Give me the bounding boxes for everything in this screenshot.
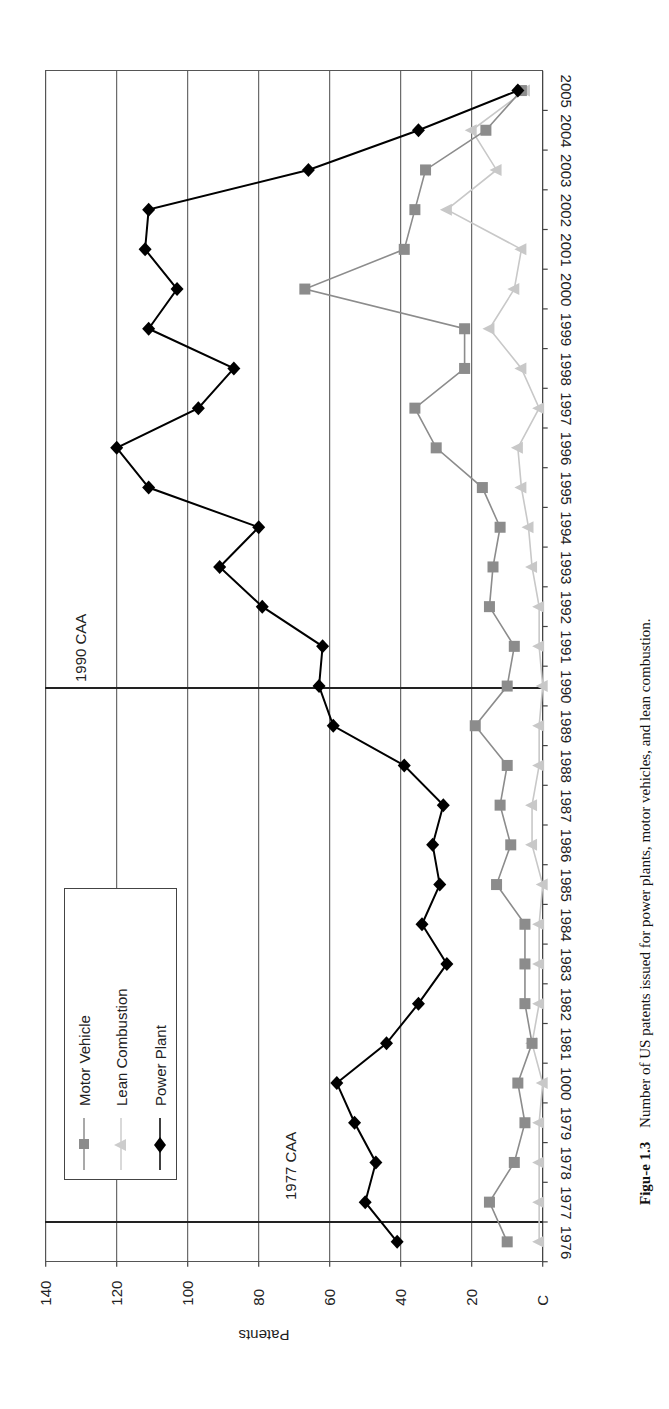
year-label: 1978 bbox=[558, 1146, 575, 1179]
line-motor-vehicle bbox=[305, 91, 532, 1242]
square-marker-icon bbox=[505, 839, 516, 850]
square-marker-icon bbox=[299, 284, 310, 295]
square-marker-icon bbox=[470, 720, 481, 731]
diamond-marker-icon bbox=[426, 838, 439, 852]
year-label: 1989 bbox=[558, 710, 575, 743]
square-marker-icon bbox=[484, 1197, 495, 1208]
year-label: 1998 bbox=[558, 352, 575, 385]
square-marker-icon bbox=[477, 482, 488, 493]
series-motor-vehicle bbox=[299, 85, 537, 1247]
diamond-marker-icon bbox=[142, 203, 155, 217]
year-label: 1997 bbox=[558, 392, 575, 425]
diamond-marker-icon bbox=[433, 878, 446, 892]
triangle-marker-icon bbox=[525, 799, 537, 811]
year-label: 1979 bbox=[558, 1107, 575, 1140]
square-marker-icon bbox=[488, 561, 499, 572]
axis-tick-label: 120 bbox=[108, 1281, 125, 1306]
legend-label-power-plant: Power Plant bbox=[152, 1024, 169, 1106]
square-marker-icon bbox=[409, 204, 420, 215]
triangle-marker-icon bbox=[525, 839, 537, 851]
event-label-1990-caa: 1990 CAA bbox=[72, 614, 89, 682]
year-label: 1981 bbox=[558, 1027, 575, 1060]
square-marker-icon bbox=[495, 800, 506, 811]
triangle-marker-icon bbox=[532, 1196, 544, 1208]
square-marker-icon bbox=[509, 641, 520, 652]
year-label: 1985 bbox=[558, 869, 575, 902]
year-label: 2002 bbox=[558, 194, 575, 227]
year-label: 2003 bbox=[558, 154, 575, 187]
diamond-marker-icon bbox=[416, 917, 429, 931]
year-label: 1993 bbox=[558, 551, 575, 584]
diamond-marker-icon bbox=[302, 163, 315, 177]
year-label: 2004 bbox=[558, 114, 575, 147]
square-marker-icon bbox=[431, 442, 442, 453]
y-axis-title: Patents bbox=[239, 1327, 290, 1344]
axis-tick-label: 140 bbox=[37, 1281, 54, 1306]
triangle-marker-icon bbox=[532, 1117, 544, 1129]
square-marker-icon bbox=[459, 363, 470, 374]
triangle-marker-icon bbox=[507, 283, 519, 295]
svg-text:Figu-e 1.3 Number of US: Figu-e 1.3 Number of US patents issued f… bbox=[637, 618, 653, 1205]
triangle-marker-icon bbox=[514, 362, 526, 374]
square-marker-icon bbox=[527, 1038, 538, 1049]
diamond-marker-icon bbox=[327, 719, 340, 733]
square-marker-icon bbox=[519, 919, 530, 930]
square-marker-icon bbox=[519, 998, 530, 1009]
triangle-marker-icon bbox=[511, 442, 523, 454]
square-marker-icon bbox=[420, 164, 431, 175]
axis-tick-label: 80 bbox=[250, 1289, 267, 1306]
square-marker-icon bbox=[459, 323, 470, 334]
triangle-marker-icon bbox=[532, 402, 544, 414]
triangle-marker-icon bbox=[532, 958, 544, 970]
square-marker-icon bbox=[519, 958, 530, 969]
year-label: 1991 bbox=[558, 630, 575, 663]
square-marker-icon bbox=[502, 681, 513, 692]
triangle-marker-icon bbox=[532, 918, 544, 930]
caption-text: Number of US patents issued for power pl… bbox=[637, 618, 653, 1127]
diamond-marker-icon bbox=[313, 679, 326, 693]
legend: Motor Vehicle Lean Combustion Power Plan… bbox=[65, 889, 177, 1180]
figure-caption: Figu-e 1.3 Number of US patents issued f… bbox=[637, 618, 653, 1205]
square-marker-icon bbox=[484, 601, 495, 612]
patents-chart: C20406080100120140 197619771978197910001… bbox=[0, 0, 669, 1409]
axis-tick-label: 60 bbox=[321, 1289, 338, 1306]
year-label: 1983 bbox=[558, 948, 575, 981]
year-label: 1988 bbox=[558, 749, 575, 782]
axis-tick-label: 100 bbox=[179, 1281, 196, 1306]
triangle-marker-icon bbox=[465, 124, 477, 136]
year-label: 1986 bbox=[558, 829, 575, 862]
triangle-marker-icon bbox=[482, 323, 494, 335]
event-label-1977-caa: 1977 CAA bbox=[282, 1132, 299, 1200]
square-marker-icon bbox=[509, 1157, 520, 1168]
square-marker-icon bbox=[512, 1078, 523, 1089]
year-label: 1990 bbox=[558, 670, 575, 703]
year-label: 1977 bbox=[558, 1186, 575, 1219]
diamond-marker-icon bbox=[369, 1155, 382, 1169]
square-marker-icon bbox=[502, 1236, 513, 1247]
year-label: 2005 bbox=[558, 75, 575, 108]
axis-tick-label: 20 bbox=[463, 1289, 480, 1306]
diamond-marker-icon bbox=[316, 639, 329, 653]
year-label: 1995 bbox=[558, 472, 575, 505]
legend-label-motor-vehicle: Motor Vehicle bbox=[76, 1015, 93, 1106]
square-marker-icon bbox=[399, 244, 410, 255]
triangle-marker-icon bbox=[532, 640, 544, 652]
triangle-marker-icon bbox=[532, 1236, 544, 1248]
square-marker-icon bbox=[495, 522, 506, 533]
axis-tick-label: 40 bbox=[392, 1289, 409, 1306]
diamond-marker-icon bbox=[412, 123, 425, 137]
axis-tick-label: C bbox=[534, 1295, 551, 1306]
square-marker-icon bbox=[491, 879, 502, 890]
square-marker-icon bbox=[409, 403, 420, 414]
year-label: 1976 bbox=[558, 1226, 575, 1259]
line-lean-combustion bbox=[447, 91, 543, 1242]
square-marker-icon bbox=[502, 760, 513, 771]
year-label: 1984 bbox=[558, 908, 575, 941]
year-label: 2000 bbox=[558, 273, 575, 306]
diamond-marker-icon bbox=[348, 1116, 361, 1130]
caption-figure-label: Figu-e 1.3 bbox=[637, 1142, 653, 1205]
year-label: 2001 bbox=[558, 233, 575, 266]
year-label: 1992 bbox=[558, 591, 575, 624]
year-label: 1982 bbox=[558, 988, 575, 1021]
triangle-marker-icon bbox=[532, 1156, 544, 1168]
